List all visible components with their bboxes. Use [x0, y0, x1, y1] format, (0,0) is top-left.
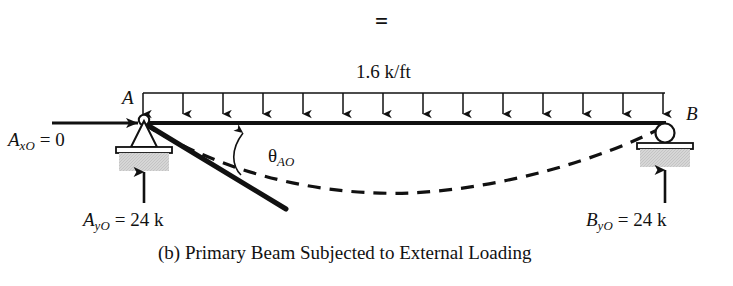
reaction-ax-subscript: xO [20, 138, 35, 153]
reaction-ax-value: = 0 [40, 129, 65, 150]
reaction-ax-symbol: A [8, 129, 20, 150]
theta-leader-arc [234, 133, 243, 175]
reaction-by-subscript: yO [598, 218, 613, 233]
reaction-ay-value: = 24 k [115, 209, 164, 230]
node-label-b: B [686, 104, 698, 123]
theta-symbol: θ [268, 145, 277, 166]
roller-support-b [637, 124, 693, 168]
equals-sign: = [375, 10, 388, 33]
reaction-by-symbol: B [586, 209, 598, 230]
slope-angle-label: θAO [268, 146, 294, 169]
node-label-a: A [122, 88, 134, 107]
reaction-ay-subscript: yO [95, 218, 110, 233]
theta-subscript: AO [277, 154, 294, 169]
distributed-load-group [143, 93, 665, 114]
figure-primary-beam-external-loading: = 1.6 k/ft A B AxO = 0 θAO AyO = 24 k By… [0, 0, 733, 286]
reaction-ay-label: AyO = 24 k [83, 210, 164, 233]
elastic-curve [144, 124, 663, 193]
figure-caption: (b) Primary Beam Subjected to External L… [158, 243, 532, 262]
reaction-by-label: ByO = 24 k [586, 210, 667, 233]
distributed-load-label: 1.6 k/ft [356, 62, 411, 81]
reaction-by-value: = 24 k [618, 209, 667, 230]
reaction-ay-symbol: A [83, 209, 95, 230]
reaction-ax-label: AxO = 0 [8, 130, 65, 153]
